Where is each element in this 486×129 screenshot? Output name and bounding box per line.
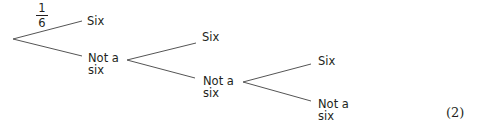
stage-3-six-label: Six: [318, 55, 335, 68]
fraction-denominator: 6: [36, 17, 48, 29]
branch-2-six: [127, 43, 196, 60]
branch-2-not-six: [127, 60, 195, 78]
stage-1-not-six-label-line2: six: [88, 64, 104, 77]
probability-fraction: 1 6: [36, 2, 48, 29]
stage-2-not-six-label-line2: six: [203, 87, 219, 100]
tree-diagram-lines: [0, 0, 486, 129]
stage-2-six-label: Six: [202, 31, 219, 44]
branch-1-not-six: [13, 39, 82, 56]
stage-3-not-six-label-line2: six: [318, 110, 334, 123]
stage-1-six-label: Six: [87, 15, 104, 28]
marks-label: (2): [446, 105, 464, 120]
branch-3-six: [243, 64, 311, 82]
fraction-numerator: 1: [36, 2, 48, 14]
branch-3-not-six: [243, 82, 311, 101]
